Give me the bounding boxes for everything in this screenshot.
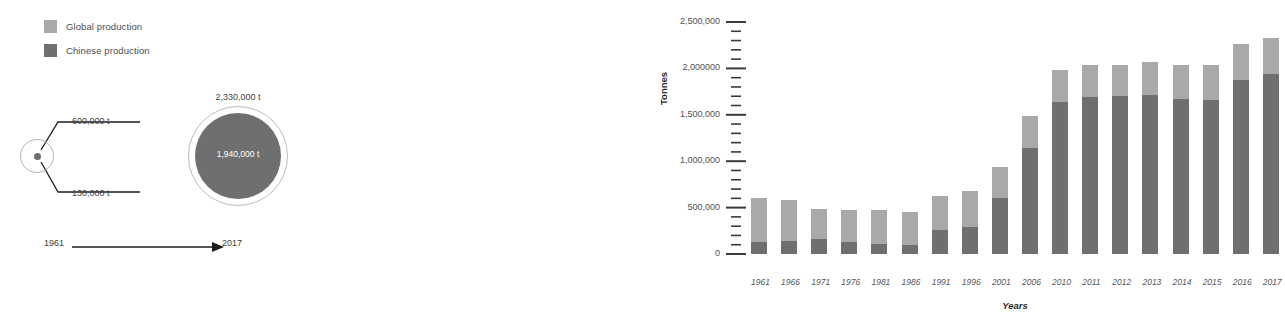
bar-segment-global [1112,65,1128,97]
circle-2017-outer-label: 2,330,000 t [186,92,290,102]
y-tick-label: 0 [656,248,720,258]
y-axis-title: Tonnes [658,72,669,105]
timeline-end-year: 2017 [222,238,242,248]
bar-segment-chinese [932,230,948,254]
plot-area [745,22,1285,254]
bar-segment-global [1022,116,1038,148]
left-panel: Global production Chinese production 1,9… [0,0,330,325]
bar-chart: Tonnes 2,500,0002,0000001,500,0001,000,0… [330,0,972,325]
x-tick-label: 2017 [1263,277,1279,287]
bar-segment-chinese [1233,80,1249,254]
bar-segment-chinese [992,198,1008,254]
bar-2013[interactable] [1142,22,1158,254]
y-tick-label: 500,000 [656,202,720,212]
x-axis-title: Years [745,300,1285,311]
timeline-start-year: 1961 [44,238,64,248]
bar-segment-global [1052,70,1068,102]
bar-segment-global [1082,65,1098,97]
bar-segment-chinese [751,242,767,254]
bar-2012[interactable] [1112,22,1128,254]
legend-swatch-global-icon [44,20,57,33]
bar-2001[interactable] [992,22,1008,254]
bar-2011[interactable] [1082,22,1098,254]
x-tick-label: 1991 [932,277,948,287]
bar-2006[interactable] [1022,22,1038,254]
y-tick-label: 1,500,000 [656,109,720,119]
bar-segment-global [932,196,948,230]
bar-group [745,22,1285,254]
bar-segment-global [751,198,767,242]
bar-segment-chinese [962,227,978,254]
legend-item-global: Global production [44,20,150,33]
bar-2017[interactable] [1263,22,1279,254]
legend-swatch-chinese-icon [44,44,57,57]
bar-segment-chinese [1112,96,1128,254]
x-tick-label: 1986 [902,277,918,287]
bar-segment-chinese [1263,74,1279,254]
bar-segment-global [1233,44,1249,80]
x-tick-label: 2006 [1022,277,1038,287]
bar-2010[interactable] [1052,22,1068,254]
x-tick-label: 1981 [871,277,887,287]
bar-segment-chinese [781,241,797,254]
x-axis-tick-labels: 1961196619711976198119861991199620012006… [745,277,1285,287]
circle-1961-outer-label: 600,000 t [72,116,110,126]
bar-2016[interactable] [1233,22,1249,254]
bar-segment-global [962,191,978,227]
bar-segment-chinese [1203,100,1219,254]
bar-segment-chinese [1142,95,1158,254]
bar-segment-global [1203,65,1219,100]
circle-1961-inner [34,153,41,160]
circle-1961-inner-label: 130,000 t [72,188,110,198]
bar-segment-chinese [841,242,857,254]
x-tick-label: 2014 [1173,277,1189,287]
bar-segment-global [1263,38,1279,74]
timeline-arrow-icon [72,240,232,254]
x-tick-label: 2001 [992,277,1008,287]
bar-segment-global [841,210,857,242]
legend-item-chinese: Chinese production [44,44,150,57]
circle-2017-inner-label: 1,940,000 t [195,149,281,159]
x-tick-label: 2013 [1142,277,1158,287]
bar-1996[interactable] [962,22,978,254]
x-tick-label: 2012 [1112,277,1128,287]
bar-segment-chinese [871,244,887,254]
x-tick-label: 1971 [811,277,827,287]
legend: Global production Chinese production [44,20,150,68]
bar-segment-global [902,212,918,244]
proportional-circles-diagram: 1,940,000 t 600,000 t 130,000 t 2,330,00… [0,92,330,222]
bar-1986[interactable] [902,22,918,254]
bar-1991[interactable] [932,22,948,254]
legend-label-chinese: Chinese production [66,45,150,56]
y-tick-label: 2,500,000 [656,16,720,26]
bar-2014[interactable] [1173,22,1189,254]
bar-segment-chinese [1052,102,1068,254]
x-tick-label: 1976 [841,277,857,287]
bar-1961[interactable] [751,22,767,254]
bar-1981[interactable] [871,22,887,254]
bar-1966[interactable] [781,22,797,254]
bar-segment-chinese [1022,148,1038,254]
bar-2015[interactable] [1203,22,1219,254]
y-tick-label: 1,000,000 [656,155,720,165]
bar-segment-global [871,210,887,243]
bar-segment-global [992,167,1008,199]
bar-segment-chinese [1082,97,1098,254]
bar-1971[interactable] [811,22,827,254]
bar-segment-chinese [902,245,918,254]
x-tick-label: 1961 [751,277,767,287]
x-tick-label: 2015 [1203,277,1219,287]
x-tick-label: 1966 [781,277,797,287]
bar-1976[interactable] [841,22,857,254]
x-tick-label: 2010 [1052,277,1068,287]
x-tick-label: 1996 [962,277,978,287]
timeline: 1961 2017 [0,232,330,262]
y-tick-label: 2,000000 [656,62,720,72]
legend-label-global: Global production [66,21,142,32]
bar-segment-global [811,209,827,240]
bar-segment-global [1173,65,1189,99]
bar-segment-global [1142,62,1158,95]
x-tick-label: 2016 [1233,277,1249,287]
bar-segment-global [781,200,797,241]
